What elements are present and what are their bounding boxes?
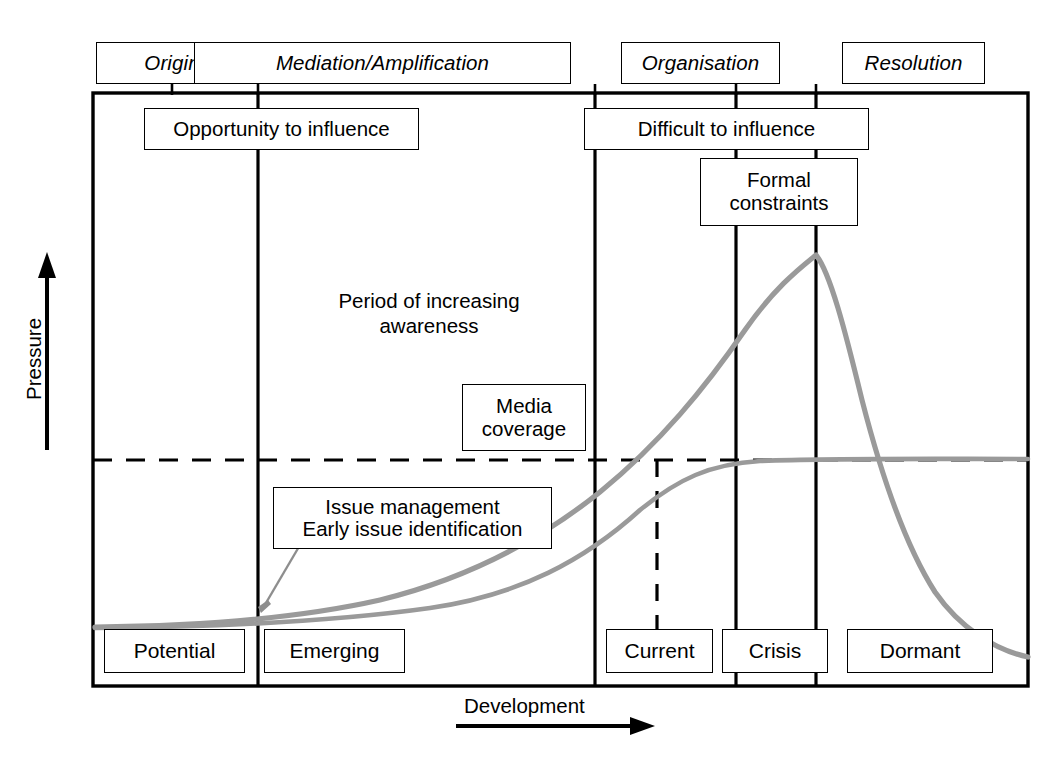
x-axis-label-text: Development bbox=[464, 694, 585, 717]
stage-box-dormant[interactable]: Dormant bbox=[847, 629, 993, 673]
annotation-label-formal-constraints: Formal constraints bbox=[701, 169, 857, 215]
phase-label-organisation: Organisation bbox=[642, 52, 759, 75]
stage-label-crisis: Crisis bbox=[749, 639, 802, 663]
phase-label-origin: Origin bbox=[144, 52, 199, 75]
annotation-box-issue-management[interactable]: Issue management Early issue identificat… bbox=[273, 487, 552, 549]
stage-label-current: Current bbox=[624, 639, 694, 663]
influence-box-difficult[interactable]: Difficult to influence bbox=[584, 108, 869, 150]
stage-box-potential[interactable]: Potential bbox=[104, 629, 245, 673]
influence-label-difficult: Difficult to influence bbox=[638, 118, 815, 141]
annotation-box-media-coverage[interactable]: Media coverage bbox=[462, 384, 586, 451]
influence-box-opportunity[interactable]: Opportunity to influence bbox=[144, 108, 419, 150]
influence-label-opportunity: Opportunity to influence bbox=[173, 118, 390, 141]
stage-box-emerging[interactable]: Emerging bbox=[264, 629, 405, 673]
annotation-text-period-of-increasing-awareness: Period of increasing awareness bbox=[264, 263, 594, 338]
issue-management-leader-arrow bbox=[258, 600, 271, 613]
stage-box-current[interactable]: Current bbox=[606, 629, 713, 673]
issue-management-leader-line bbox=[263, 545, 300, 608]
pressure-axis-arrowhead bbox=[38, 252, 56, 278]
phase-label-resolution: Resolution bbox=[865, 52, 963, 75]
stage-box-crisis[interactable]: Crisis bbox=[722, 629, 828, 673]
x-axis-label: Development bbox=[464, 694, 585, 718]
development-axis-arrowhead bbox=[630, 717, 655, 735]
annotation-box-formal-constraints[interactable]: Formal constraints bbox=[700, 158, 858, 226]
annotation-label-media-coverage: Media coverage bbox=[482, 395, 566, 441]
phase-box-mediation-amplification[interactable]: Mediation/Amplification bbox=[194, 42, 571, 84]
phase-box-resolution[interactable]: Resolution bbox=[842, 42, 985, 84]
phase-box-organisation[interactable]: Organisation bbox=[621, 42, 780, 84]
y-axis-label: Pressure bbox=[22, 318, 46, 400]
stage-label-potential: Potential bbox=[134, 639, 216, 663]
stage-label-dormant: Dormant bbox=[880, 639, 961, 663]
phase-label-mediation-amplification: Mediation/Amplification bbox=[276, 52, 489, 75]
annotation-label-issue-management: Issue management Early issue identificat… bbox=[303, 496, 523, 540]
stage-label-emerging: Emerging bbox=[290, 639, 380, 663]
diagram-canvas: Origin Mediation/Amplification Organisat… bbox=[0, 0, 1055, 772]
annotation-label-period-of-increasing-awareness: Period of increasing awareness bbox=[338, 289, 519, 337]
y-axis-label-text: Pressure bbox=[22, 318, 45, 400]
